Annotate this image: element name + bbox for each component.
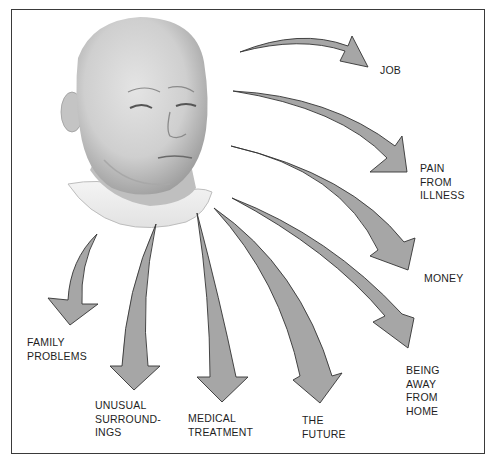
- arrow-family: [48, 234, 98, 325]
- label-pain-from-illness: PAIN FROM ILLNESS: [420, 162, 465, 203]
- label-money: MONEY: [424, 272, 464, 286]
- label-the-future: THE FUTURE: [302, 414, 346, 441]
- arrow-medical: [197, 213, 248, 402]
- label-unusual-surroundings: UNUSUAL SURROUND- INGS: [95, 399, 161, 440]
- arrow-job: [240, 36, 368, 67]
- label-medical-treatment: MEDICAL TREATMENT: [188, 412, 253, 439]
- label-job: JOB: [380, 64, 401, 78]
- arrow-pain: [233, 91, 407, 172]
- label-being-away-from-home: BEING AWAY FROM HOME: [406, 364, 440, 418]
- arrow-home: [232, 198, 414, 348]
- arrow-surroundings: [110, 224, 160, 390]
- label-family-problems: FAMILY PROBLEMS: [27, 336, 87, 363]
- man-portrait: [61, 17, 212, 228]
